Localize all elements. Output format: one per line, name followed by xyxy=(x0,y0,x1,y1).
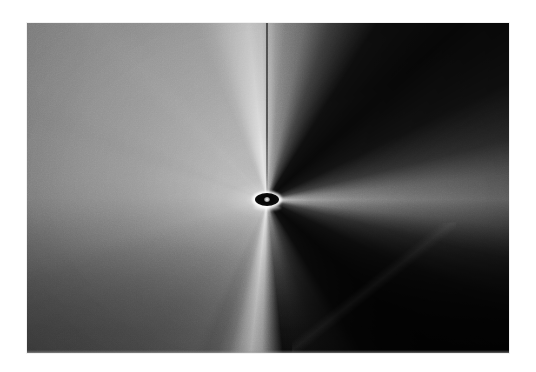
vertical-dark-line xyxy=(266,23,268,201)
image-plate xyxy=(27,23,509,353)
wing-edge-kink xyxy=(292,222,456,352)
plate-base-strip xyxy=(27,350,509,353)
page-root: grayscale radial field exposure xyxy=(0,0,536,372)
